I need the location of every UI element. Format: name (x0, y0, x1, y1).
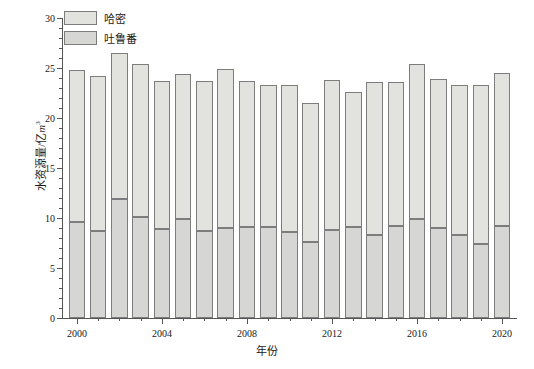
bar-segment-turpan-2017 (430, 228, 447, 318)
x-tick-label: 2004 (152, 328, 172, 339)
x-tick-minor (226, 318, 227, 321)
x-axis-title: 年份 (0, 342, 534, 358)
y-tick-minor (59, 198, 62, 199)
bar-segment-hami-2018 (451, 85, 468, 235)
bar-segment-turpan-2000 (69, 222, 86, 318)
y-axis-unit-prefix: 亿 (35, 133, 47, 144)
y-axis-unit-base: m (35, 125, 47, 133)
bar-2006 (196, 18, 213, 318)
bar-2011 (302, 18, 319, 318)
bar-2001 (90, 18, 107, 318)
y-tick-minor (59, 108, 62, 109)
bar-2002 (111, 18, 128, 318)
bar-2010 (281, 18, 298, 318)
x-tick-label: 2012 (322, 328, 342, 339)
x-tick-minor (204, 318, 205, 321)
bar-segment-turpan-2006 (196, 231, 213, 318)
x-tick-major (162, 318, 163, 324)
bar-segment-turpan-2013 (345, 227, 362, 318)
bar-2007 (217, 18, 234, 318)
bar-segment-turpan-2003 (132, 217, 149, 318)
x-tick-minor (183, 318, 184, 321)
y-tick-minor (59, 48, 62, 49)
bar-segment-turpan-2007 (217, 228, 234, 318)
bar-segment-turpan-2008 (239, 227, 256, 318)
y-tick-minor (59, 38, 62, 39)
x-tick-minor (290, 318, 291, 321)
y-tick-minor (59, 88, 62, 89)
y-tick-minor (59, 28, 62, 29)
bar-2013 (345, 18, 362, 318)
bar-2009 (260, 18, 277, 318)
y-axis-unit-exponent: 3 (34, 121, 42, 125)
bar-2003 (132, 18, 149, 318)
x-tick-minor (268, 318, 269, 321)
y-tick-minor (59, 208, 62, 209)
bar-segment-turpan-2011 (302, 242, 319, 318)
bar-segment-hami-2000 (69, 70, 86, 222)
bar-segment-turpan-2009 (260, 227, 277, 318)
chart-legend: 哈密 吐鲁番 (64, 10, 137, 50)
y-tick-minor (59, 138, 62, 139)
bar-segment-hami-2011 (302, 103, 319, 242)
bar-2017 (430, 18, 447, 318)
y-tick-major (57, 218, 62, 219)
x-tick-minor (141, 318, 142, 321)
bar-segment-hami-2012 (324, 80, 341, 230)
stacked-bar-chart-figure: 水资源量/亿m3 年份 051015202530 200020042008201… (0, 0, 534, 369)
bar-segment-hami-2005 (175, 74, 192, 219)
y-tick-minor (59, 258, 62, 259)
plot-area: 051015202530 200020042008201220162020 (62, 18, 517, 318)
x-tick-minor (460, 318, 461, 321)
y-tick-label: 10 (45, 213, 55, 224)
bar-segment-turpan-2001 (90, 231, 107, 318)
bar-segment-hami-2020 (494, 73, 511, 226)
bar-segment-hami-2003 (132, 64, 149, 217)
legend-swatch-hami (64, 11, 97, 25)
y-tick-major (57, 168, 62, 169)
bar-2014 (366, 18, 383, 318)
y-tick-major (57, 268, 62, 269)
y-tick-label: 25 (45, 63, 55, 74)
bar-segment-hami-2015 (388, 82, 405, 226)
bar-segment-turpan-2004 (154, 229, 171, 318)
bar-segment-turpan-2019 (473, 244, 490, 318)
y-tick-minor (59, 248, 62, 249)
legend-label-hami: 哈密 (104, 10, 126, 26)
bar-2015 (388, 18, 405, 318)
y-tick-minor (59, 288, 62, 289)
y-tick-minor (59, 58, 62, 59)
x-tick-major (417, 318, 418, 324)
y-tick-major (57, 68, 62, 69)
bar-segment-hami-2016 (409, 64, 426, 219)
x-tick-minor (98, 318, 99, 321)
x-tick-minor (438, 318, 439, 321)
y-tick-minor (59, 228, 62, 229)
y-tick-label: 20 (45, 113, 55, 124)
bar-segment-hami-2017 (430, 79, 447, 228)
x-tick-minor (481, 318, 482, 321)
legend-swatch-turpan (64, 31, 97, 45)
y-tick-label: 15 (45, 163, 55, 174)
bar-segment-hami-2010 (281, 85, 298, 232)
x-tick-minor (375, 318, 376, 321)
bar-2020 (494, 18, 511, 318)
x-tick-major (502, 318, 503, 324)
bar-segment-hami-2007 (217, 69, 234, 228)
bar-segment-hami-2002 (111, 53, 128, 199)
y-tick-major (57, 118, 62, 119)
bar-segment-turpan-2014 (366, 235, 383, 318)
y-tick-minor (59, 148, 62, 149)
bar-segment-turpan-2015 (388, 226, 405, 318)
x-tick-label: 2020 (492, 328, 512, 339)
y-tick-label: 5 (50, 263, 55, 274)
x-tick-minor (119, 318, 120, 321)
x-tick-label: 2008 (237, 328, 257, 339)
bar-segment-turpan-2002 (111, 199, 128, 318)
bar-2004 (154, 18, 171, 318)
y-tick-minor (59, 188, 62, 189)
x-tick-label: 2016 (407, 328, 427, 339)
bar-segment-hami-2009 (260, 85, 277, 227)
bar-segment-hami-2004 (154, 81, 171, 229)
x-tick-major (332, 318, 333, 324)
